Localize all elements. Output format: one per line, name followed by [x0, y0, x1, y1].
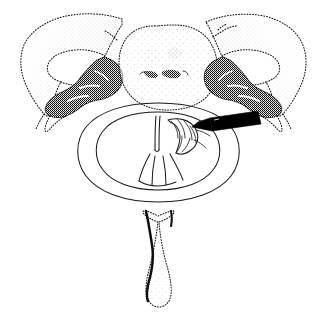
figure-panel: A [0, 0, 317, 313]
vertebral-body [119, 25, 217, 110]
anatomical-illustration [0, 0, 317, 313]
